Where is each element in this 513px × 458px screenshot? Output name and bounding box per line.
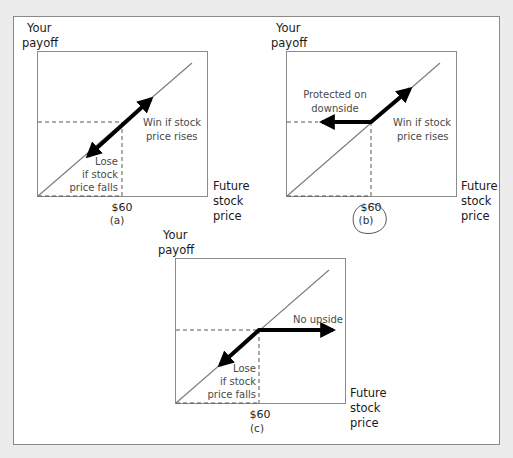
y-axis-label-b-1: Your	[275, 21, 301, 35]
y-axis-label-a-1: Your	[26, 21, 52, 35]
y-axis-label-c-2: payoff	[158, 243, 195, 257]
panel-a: Your payoff Win if stock price rises Los…	[22, 21, 250, 226]
x-axis-label-a-2: stock	[213, 194, 244, 208]
x-axis-label-c-2: stock	[350, 401, 381, 415]
x-axis-label-c-3: price	[350, 416, 379, 430]
annotation-lose-a-2: if stock	[82, 169, 118, 180]
annotation-lose-c-2: if stock	[220, 376, 256, 387]
y-axis-label-b-2: payoff	[271, 36, 308, 50]
payoff-arrow-c	[220, 330, 333, 365]
annotation-lose-c-3: price falls	[208, 389, 256, 400]
strike-label-a: $60	[112, 201, 133, 214]
annotation-win-a-1: Win if stock	[143, 117, 201, 128]
x-axis-label-b-1: Future	[461, 179, 498, 193]
x-axis-label-c-1: Future	[350, 386, 387, 400]
annotation-protected-b-1: Protected on	[303, 89, 367, 100]
y-axis-label-c-1: Your	[162, 228, 188, 242]
panel-c: Your payoff No upside Lose if stock pric…	[158, 228, 387, 434]
annotation-no-upside-c: No upside	[293, 314, 343, 325]
annotation-lose-a-3: price falls	[70, 182, 118, 193]
caption-c: (c)	[250, 422, 264, 434]
strike-label-c: $60	[250, 408, 271, 421]
x-axis-label-a-1: Future	[213, 179, 250, 193]
annotation-protected-b-2: downside	[311, 103, 358, 114]
y-axis-label-a-2: payoff	[22, 36, 59, 50]
caption-a: (a)	[110, 214, 125, 226]
annotation-win-b-2: price rises	[397, 131, 449, 142]
payoff-diagrams: Your payoff Win if stock price rises Los…	[0, 0, 513, 458]
annotation-win-a-2: price rises	[146, 131, 198, 142]
strike-label-b: $60	[361, 201, 382, 214]
annotation-lose-a-1: Lose	[95, 156, 118, 167]
x-axis-label-a-3: price	[213, 209, 242, 223]
annotation-win-b-1: Win if stock	[393, 117, 451, 128]
double-arrow-a	[88, 99, 151, 156]
caption-b: (b)	[359, 214, 374, 226]
x-axis-label-b-3: price	[461, 209, 490, 223]
annotation-lose-c-1: Lose	[233, 363, 256, 374]
payoff-line-b	[287, 63, 440, 196]
panel-b: Your payoff Protected on downside Win if…	[271, 21, 498, 234]
x-axis-label-b-2: stock	[461, 194, 492, 208]
